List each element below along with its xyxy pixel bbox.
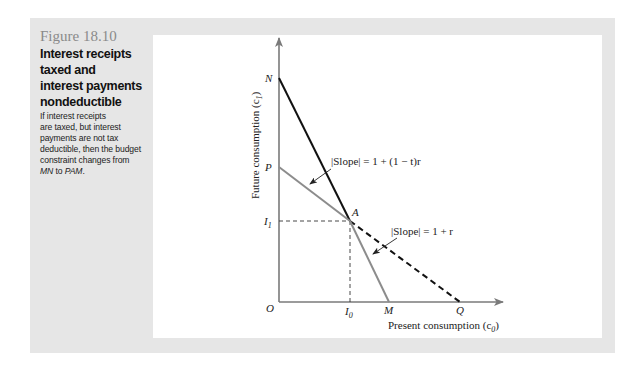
slope-label-after-tax: |Slope| = 1 + (1 − t)r [331, 155, 421, 168]
point-label-P: P [264, 161, 272, 173]
origin-label: O [266, 302, 274, 314]
point-label-A: A [351, 206, 359, 218]
point-label-I1: I1 [263, 215, 272, 230]
point-label-Q: Q [456, 304, 464, 316]
point-label-N: N [264, 72, 273, 84]
budget-constraint-diagram: |Slope| = 1 + (1 − t)r |Slope| = 1 + r N… [0, 0, 643, 369]
slope-label-pre-tax: |Slope| = 1 + r [391, 225, 453, 237]
x-axis-title: Present consumption (c0) [388, 319, 499, 334]
constraint-AM [350, 221, 389, 302]
constraint-PA [279, 167, 350, 221]
y-axis-title: Future consumption (c1) [249, 91, 264, 199]
constraint-NA [279, 78, 350, 221]
point-label-I0: I0 [344, 305, 353, 320]
point-label-M: M [383, 304, 394, 316]
